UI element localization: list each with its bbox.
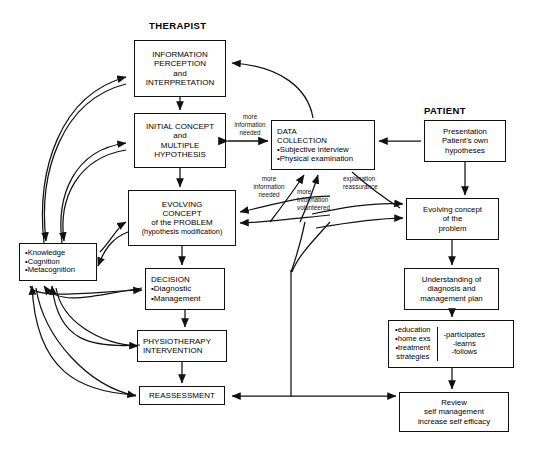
arrow-center-to-evolving-lower [240,215,330,223]
box-line: management plan [420,294,482,303]
arrow-info-to-knowledge [45,84,126,241]
box-line: Presentation [443,127,487,136]
education-right-column: -participates -learns -follows [438,321,491,367]
arrow-knowledge-to-reassessment [36,288,136,396]
arrow-initial-to-knowledge [63,150,126,241]
box-line: (hypothesis modification) [142,228,223,237]
label-line: volunteered [297,204,345,212]
box-initial-concept: INITIAL CONCEPT and MULTIPLE HYPOTHESIS [134,113,226,168]
label-line: explanation [343,175,391,183]
box-information-perception: INFORMATION PERCEPTION and INTERPRETATIO… [134,40,226,97]
education-left-column: •education •home exs •treatment strategi… [389,321,437,367]
box-line: MULTIPLE [161,141,200,150]
box-line: PERCEPTION [154,59,206,68]
box-line: of the [443,214,463,223]
box-line: DECISION [151,275,190,284]
arrow-knowledge-to-evolving [100,222,126,252]
label-more-information-needed-lower: more information needed [246,175,292,199]
box-line: HYPOTHESIS [154,150,206,159]
box-line: -follows [444,348,485,357]
box-line: INITIAL CONCEPT [146,122,214,131]
arrow-knowledge-to-decision [30,286,142,294]
arrow-knowledge-to-initial [61,143,126,243]
box-line: INTERVENTION [143,346,202,355]
label-line: information [297,196,345,204]
label-line: more [246,175,292,183]
label-more-information-volunteered: more information volunteered [297,188,345,212]
box-line: Review [441,398,467,407]
arrow-evolving-to-knowledge [98,232,128,266]
label-line: needed [228,129,272,137]
box-line: EVOLVING [162,200,202,209]
diagram-canvas: THERAPIST PATIENT INFORMATION PERCEPTION… [0,0,536,463]
arrow-knowledge-to-physio [56,288,138,346]
box-line: Patient's own [442,136,488,145]
box-line: diagnosis and [427,284,475,293]
box-line: Evolving concept [423,205,482,214]
box-understanding: Understanding of diagnosis and managemen… [404,268,499,310]
box-line: and [173,69,186,78]
box-line: COLLECTION [277,136,327,145]
box-line: and [173,131,186,140]
arrow-knowledge-to-info [43,77,126,243]
arrow-decision-to-knowledge [44,286,142,298]
box-line: REASSESSMENT [149,391,215,400]
box-line: CONCEPT [162,209,201,218]
box-line: increase self efficacy [418,417,490,426]
box-line: strategies [395,353,431,362]
box-line: DATA [277,127,297,136]
label-explanation-reassurance: explanation reassurance [343,175,391,191]
box-line: •Metacognition [25,266,75,275]
arrow-physio-to-knowledge [52,286,140,346]
box-education-participation: •education •home exs •treatment strategi… [388,320,514,368]
label-line: needed [246,191,292,199]
box-line: problem [438,224,466,233]
arrow-datacollection-to-info [232,63,313,118]
box-evolving-concept-problem: EVOLVING CONCEPT of the PROBLEM (hypothe… [128,190,236,246]
box-line: •Subjective interview [277,145,349,154]
box-reassessment: REASSESSMENT [139,386,225,405]
label-more-information-needed-upper: more information needed [228,113,272,137]
box-line: PHYSIOTHERAPY [143,337,211,346]
box-line: INTERPRETATION [146,78,215,87]
arrow-center-to-patient-evolving-lower [316,218,403,228]
box-physiotherapy-intervention: PHYSIOTHERAPY INTERVENTION [137,330,227,362]
box-evolving-concept-patient: Evolving concept of the problem [406,198,499,240]
box-line: Understanding of [422,275,481,284]
trunk-branch-right [292,222,330,272]
box-line: •Management [151,294,201,303]
box-line: hypotheses [445,146,485,155]
box-line: •Diagnostic [151,284,191,293]
box-knowledge-cognition-metacognition: •Knowledge •Cognition •Metacognition [19,243,97,281]
arrow-reassessment-to-knowledge [32,286,136,395]
label-line: more [228,113,272,121]
box-presentation: Presentation Patient's own hypotheses [424,120,506,162]
box-data-collection: DATA COLLECTION •Subjective interview •P… [271,120,375,170]
box-line: •Physical examination [277,154,353,163]
label-line: information [228,121,272,129]
label-line: more [297,188,345,196]
box-decision: DECISION •Diagnostic •Management [145,268,225,310]
header-therapist: THERAPIST [149,20,206,31]
header-patient: PATIENT [424,105,466,116]
trunk-branch-left [291,222,305,272]
label-line: reassurance [343,183,391,191]
box-line: INFORMATION [152,50,207,59]
box-line: self management [424,407,484,416]
box-review: Review self management increase self eff… [399,392,509,432]
label-line: information [246,183,292,191]
